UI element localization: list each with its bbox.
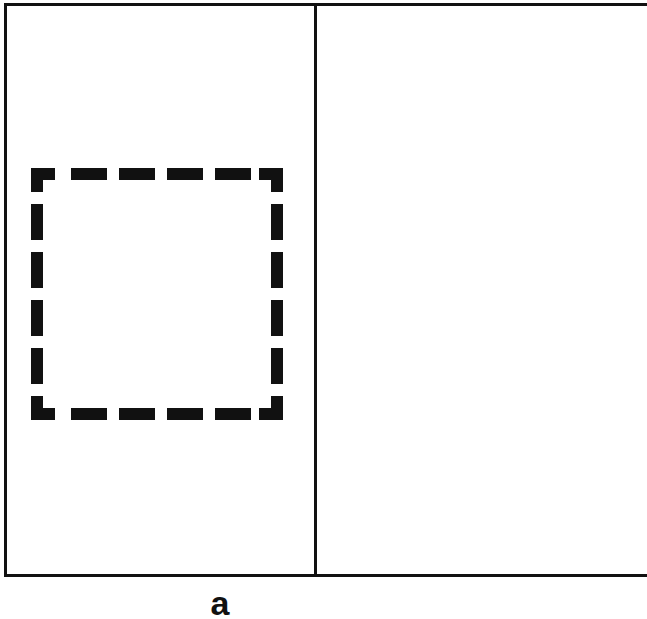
figure-caption: a bbox=[0, 586, 440, 619]
dashed-square bbox=[31, 168, 283, 420]
dashed-square-outline-icon bbox=[31, 168, 283, 420]
right-panel bbox=[317, 6, 621, 574]
